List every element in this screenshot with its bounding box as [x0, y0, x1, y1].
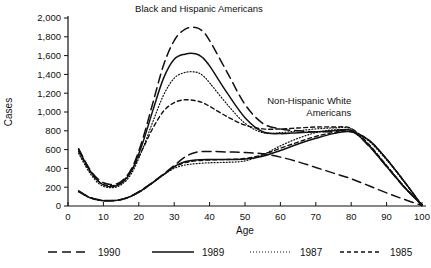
y-tick-label: 800: [45, 125, 61, 136]
x-tick-label: 30: [169, 211, 180, 222]
x-axis-ticks: 0102030405060708090100: [65, 202, 430, 222]
axis-lines: [68, 16, 426, 206]
x-tick-label: 20: [134, 211, 145, 222]
x-tick-label: 10: [98, 211, 109, 222]
non-hispanic-white-annotation: Americans: [306, 107, 351, 118]
x-tick-label: 0: [65, 211, 70, 222]
curve-black-and-hispanic-americans-1990: [79, 27, 422, 205]
black-hispanic-annotation: Black and Hispanic Americans: [135, 3, 263, 14]
y-tick-label: 1,200: [37, 88, 61, 99]
x-axis-label: Age: [236, 225, 254, 236]
x-tick-label: 90: [381, 211, 392, 222]
x-tick-label: 40: [204, 211, 215, 222]
chart-figure: 02004006008001,0001,2001,4001,6001,8002,…: [0, 0, 431, 268]
y-axis-ticks: 02004006008001,0001,2001,4001,6001,8002,…: [37, 12, 68, 211]
curve-black-and-hispanic-americans-1989: [79, 53, 422, 205]
y-tick-label: 200: [45, 182, 61, 193]
y-tick-label: 1,400: [37, 69, 61, 80]
legend-label-1987: 1987: [300, 247, 323, 258]
curve-black-and-hispanic-americans-1987: [79, 72, 422, 205]
line-chart: 02004006008001,0001,2001,4001,6001,8002,…: [0, 0, 431, 268]
legend-label-1985: 1985: [390, 247, 413, 258]
x-tick-label: 80: [346, 211, 357, 222]
legend-label-1990: 1990: [98, 247, 121, 258]
x-tick-label: 60: [275, 211, 286, 222]
y-tick-label: 2,000: [37, 12, 61, 23]
x-tick-label: 70: [311, 211, 322, 222]
y-tick-label: 600: [45, 144, 61, 155]
y-tick-label: 1,600: [37, 50, 61, 61]
y-tick-label: 400: [45, 163, 61, 174]
x-tick-label: 100: [414, 211, 430, 222]
chart-legend: 1990198919871985: [48, 247, 413, 258]
legend-label-1989: 1989: [202, 247, 225, 258]
y-axis-label: Cases: [3, 98, 14, 126]
y-tick-label: 1,000: [37, 106, 61, 117]
non-hispanic-white-annotation: Non-Hispanic White: [267, 95, 351, 106]
y-tick-label: 1,800: [37, 31, 61, 42]
data-curves: [79, 27, 422, 205]
curve-non-hispanic-white-americans-1985: [79, 131, 422, 205]
y-tick-label: 0: [56, 200, 61, 211]
x-tick-label: 50: [240, 211, 251, 222]
